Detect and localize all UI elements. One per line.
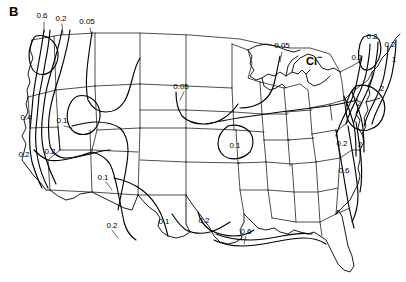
contour-0.4-gulf bbox=[216, 233, 312, 240]
contour-value-label: 0.1 bbox=[229, 142, 240, 150]
label-leader-lines bbox=[44, 22, 282, 244]
contour-value-label: 0.1 bbox=[351, 54, 362, 62]
contour-value-label: 0.6 bbox=[36, 12, 47, 20]
contour-value-label: 0.05 bbox=[274, 42, 290, 50]
contour-value-label: 0.1 bbox=[158, 218, 169, 226]
contour-value-label: 0.2 bbox=[44, 148, 55, 156]
contour-value-label: 1 bbox=[392, 56, 396, 64]
contour-lines bbox=[29, 30, 396, 246]
contour-value-label: 0.2 bbox=[198, 217, 209, 225]
contour-value-label: 0.2 bbox=[55, 15, 66, 23]
contour-value-label: 0.05 bbox=[79, 18, 95, 26]
contour-0.05-northern-rockies bbox=[86, 32, 140, 112]
contour-value-label: 0.4 bbox=[20, 114, 31, 122]
contour-value-label: 0.2 bbox=[336, 140, 347, 148]
contour-pnw-lobe bbox=[29, 35, 58, 74]
contour-value-label: 2 bbox=[380, 85, 384, 93]
coastline-outline bbox=[22, 34, 400, 272]
contour-value-label: 0.2 bbox=[106, 222, 117, 230]
contour-idaho-lobe bbox=[67, 95, 100, 134]
contour-value-label: 0.6 bbox=[338, 167, 349, 175]
contour-value-label: 0.2 bbox=[366, 33, 377, 41]
contour-0.1-great-basin bbox=[72, 122, 128, 210]
contour-value-label: 0.2 bbox=[18, 151, 29, 159]
contour-0.6-gulf bbox=[214, 238, 326, 246]
contour-value-label: 2 bbox=[357, 100, 361, 108]
contour-value-label: 0.05 bbox=[173, 83, 189, 91]
contour-value-label: 2 bbox=[358, 141, 362, 149]
contour-value-label: 0.1 bbox=[56, 117, 67, 125]
figure-panel: B Cl− bbox=[0, 0, 406, 282]
contour-value-label: 0.6 bbox=[240, 228, 251, 236]
contour-value-label: 0.2 bbox=[384, 41, 395, 49]
contour-value-label: 0.1 bbox=[97, 174, 108, 182]
